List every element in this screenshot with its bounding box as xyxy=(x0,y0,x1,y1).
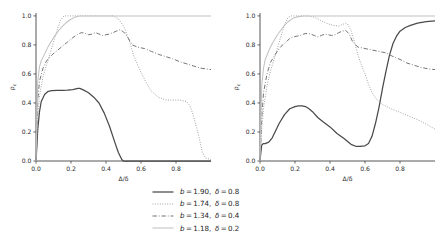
legend-item-label: b = 1.74, δ = 0.8 xyxy=(180,199,239,208)
data-series-line xyxy=(260,16,435,161)
x-tick-label: 0.8 xyxy=(395,165,405,172)
y-tick-label: 0.2 xyxy=(22,128,32,135)
chart-legend: b = 1.90, δ = 0.8b = 1.74, δ = 0.8b = 1.… xyxy=(0,184,447,241)
x-tick-label: 0.8 xyxy=(171,165,181,172)
x-tick-label: 0.2 xyxy=(66,165,76,172)
data-series-line xyxy=(260,16,435,161)
legend-item-label: b = 1.34, δ = 0.4 xyxy=(180,211,239,220)
x-tick-label: 0.6 xyxy=(136,165,146,172)
legend-item: b = 1.90, δ = 0.8 xyxy=(152,186,239,197)
data-series-line xyxy=(36,88,211,161)
legend-item: b = 1.74, δ = 0.8 xyxy=(152,198,239,209)
data-series-line xyxy=(36,16,211,161)
plot-svg-right: 0.00.20.40.60.81.00.00.20.40.60.8Δ/δρc xyxy=(224,0,447,185)
legend-item-label: b = 1.90, δ = 0.8 xyxy=(180,187,239,196)
x-tick-label: 0.4 xyxy=(325,165,335,172)
data-series-line xyxy=(36,16,211,161)
legend-item: b = 1.34, δ = 0.4 xyxy=(152,210,239,221)
y-axis-label: ρc xyxy=(8,83,17,90)
legend-line-swatch xyxy=(152,223,174,233)
legend-item: b = 1.18, δ = 0.2 xyxy=(152,223,239,234)
y-tick-label: 0.8 xyxy=(246,41,256,48)
x-tick-label: 0.4 xyxy=(101,165,111,172)
data-series-line xyxy=(260,21,435,161)
y-tick-label: 0.4 xyxy=(22,99,32,106)
x-tick-label: 0.6 xyxy=(360,165,370,172)
legend-line-swatch xyxy=(152,211,174,221)
y-tick-label: 1.0 xyxy=(22,12,32,19)
panel-container: 0.00.20.40.60.81.00.00.20.40.60.8Δ/δρc 0… xyxy=(0,0,447,185)
y-tick-label: 0.6 xyxy=(22,70,32,77)
legend-line-swatch xyxy=(152,199,174,209)
chart-panel-left: 0.00.20.40.60.81.00.00.20.40.60.8Δ/δρc xyxy=(0,0,223,185)
chart-panel-right: 0.00.20.40.60.81.00.00.20.40.60.8Δ/δρc xyxy=(224,0,447,185)
y-tick-label: 0.0 xyxy=(246,157,256,164)
data-series-line xyxy=(36,30,211,161)
legend-rows: b = 1.90, δ = 0.8b = 1.74, δ = 0.8b = 1.… xyxy=(152,186,239,234)
y-tick-label: 0.0 xyxy=(22,157,32,164)
figure-root: 0.00.20.40.60.81.00.00.20.40.60.8Δ/δρc 0… xyxy=(0,0,447,241)
x-tick-label: 0.0 xyxy=(31,165,41,172)
y-tick-label: 0.4 xyxy=(246,99,256,106)
x-tick-label: 0.2 xyxy=(290,165,300,172)
legend-item-label: b = 1.18, δ = 0.2 xyxy=(180,224,239,233)
x-axis-label: Δ/δ xyxy=(119,175,129,182)
y-tick-label: 1.0 xyxy=(246,12,256,19)
y-axis-label: ρc xyxy=(232,83,241,90)
x-axis-label: Δ/δ xyxy=(343,175,353,182)
plot-svg-left: 0.00.20.40.60.81.00.00.20.40.60.8Δ/δρc xyxy=(0,0,223,185)
x-tick-label: 0.0 xyxy=(255,165,265,172)
y-tick-label: 0.6 xyxy=(246,70,256,77)
y-tick-label: 0.2 xyxy=(246,128,256,135)
y-tick-label: 0.8 xyxy=(22,41,32,48)
legend-line-swatch xyxy=(152,187,174,197)
